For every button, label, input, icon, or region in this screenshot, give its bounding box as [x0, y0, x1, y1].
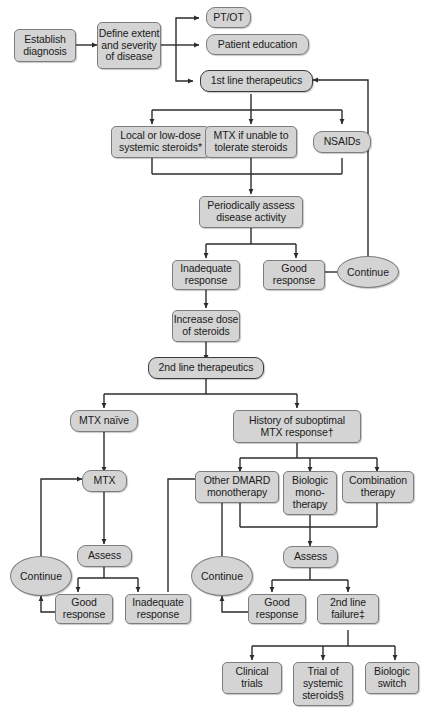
node-label: Other DMARD monotherapy: [204, 475, 271, 499]
node-label: Combination therapy: [349, 475, 407, 499]
node-label: MTX: [94, 475, 116, 487]
node-second-line-therapeutics[interactable]: 2nd line therapeutics: [148, 357, 264, 379]
node-mtx[interactable]: MTX: [82, 470, 127, 492]
node-label: 2nd line therapeutics: [159, 362, 254, 374]
node-periodically-assess[interactable]: Periodically assess disease activity: [199, 196, 303, 228]
node-good-response-1[interactable]: Good response: [263, 260, 325, 290]
node-label: Assess: [294, 551, 327, 563]
node-label: Trial of systemic steroids§: [302, 666, 344, 701]
node-inadequate-response-left[interactable]: Inadequate response: [125, 594, 191, 624]
node-label: Inadequate response: [132, 597, 184, 621]
node-other-dmard-monotherapy[interactable]: Other DMARD monotherapy: [195, 471, 279, 503]
node-history-suboptimal[interactable]: History of suboptimal MTX response†: [233, 410, 361, 443]
node-label: Periodically assess disease activity: [207, 200, 294, 224]
flowchart-canvas: Establish diagnosis Define extent and se…: [0, 0, 424, 716]
node-label: Biologic switch: [374, 666, 410, 690]
node-label: PT/OT: [213, 12, 243, 24]
node-label: Good response: [256, 597, 298, 621]
node-label: 2nd line failure‡: [330, 597, 366, 621]
node-label: Inadequate response: [180, 263, 232, 287]
node-label: Define extent and severity of disease: [99, 28, 160, 63]
node-label: MTX naïve: [79, 415, 129, 427]
node-second-line-failure[interactable]: 2nd line failure‡: [317, 594, 379, 624]
node-trial-systemic-steroids[interactable]: Trial of systemic steroids§: [293, 662, 353, 706]
node-good-response-right[interactable]: Good response: [248, 594, 306, 624]
node-good-response-left[interactable]: Good response: [55, 594, 113, 624]
node-pt-ot[interactable]: PT/OT: [206, 7, 251, 28]
node-inadequate-response-1[interactable]: Inadequate response: [172, 260, 240, 290]
node-assess-left[interactable]: Assess: [77, 545, 132, 567]
node-define-extent[interactable]: Define extent and severity of disease: [97, 22, 161, 69]
node-label: Continue: [201, 570, 243, 582]
node-continue-right[interactable]: Continue: [191, 556, 253, 596]
node-label: MTX if unable to tolerate steroids: [214, 130, 289, 154]
node-label: Establish diagnosis: [23, 34, 66, 58]
node-biologic-switch[interactable]: Biologic switch: [365, 662, 419, 694]
node-label: Local or low-dose systemic steroids*: [119, 130, 202, 154]
node-first-line-therapeutics[interactable]: 1st line therapeutics: [200, 70, 313, 92]
node-mtx-if-unable[interactable]: MTX if unable to tolerate steroids: [205, 126, 297, 158]
node-label: Patient education: [218, 39, 297, 51]
node-label: Biologic mono- therapy: [292, 475, 328, 510]
node-label: Good response: [63, 597, 105, 621]
node-label: NSAIDs: [324, 136, 361, 148]
node-increase-dose[interactable]: Increase dose of steroids: [172, 310, 240, 342]
node-label: Continue: [20, 570, 62, 582]
node-assess-right[interactable]: Assess: [283, 546, 338, 568]
node-label: Clinical trials: [235, 666, 268, 690]
node-clinical-trials[interactable]: Clinical trials: [222, 662, 282, 694]
node-mtx-naive[interactable]: MTX naïve: [70, 410, 138, 432]
node-establish-diagnosis[interactable]: Establish diagnosis: [14, 29, 76, 62]
node-label: Increase dose of steroids: [174, 314, 239, 338]
node-combination-therapy[interactable]: Combination therapy: [342, 471, 414, 503]
node-label: History of suboptimal MTX response†: [249, 415, 345, 439]
node-patient-education[interactable]: Patient education: [206, 34, 309, 55]
node-local-steroids[interactable]: Local or low-dose systemic steroids*: [111, 126, 210, 158]
node-label: Continue: [347, 266, 389, 278]
node-label: Good response: [273, 263, 315, 287]
node-continue-1[interactable]: Continue: [337, 256, 399, 288]
node-continue-left[interactable]: Continue: [10, 556, 72, 596]
node-label: 1st line therapeutics: [211, 75, 302, 87]
node-nsaids[interactable]: NSAIDs: [313, 131, 371, 153]
node-biologic-monotherapy[interactable]: Biologic mono- therapy: [283, 471, 337, 515]
node-label: Assess: [88, 550, 121, 562]
